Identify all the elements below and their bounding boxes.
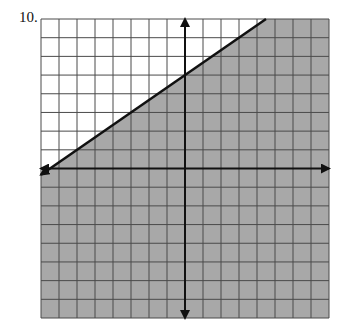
- coordinate-plane: [0, 0, 345, 332]
